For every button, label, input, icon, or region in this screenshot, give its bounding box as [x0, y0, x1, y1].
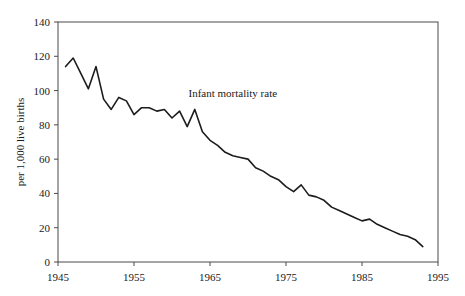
- y-tick-label-40: 40: [39, 187, 51, 199]
- y-axis-label: per 1,000 live births: [14, 98, 26, 187]
- y-tick-label-100: 100: [34, 85, 51, 97]
- chart-annotations: Infant mortality rate: [189, 87, 278, 99]
- chart-canvas: 194519551965197519851995 020406080100120…: [0, 0, 465, 296]
- y-axis-ticks: [54, 22, 58, 262]
- infant-mortality-chart: 194519551965197519851995 020406080100120…: [0, 0, 465, 296]
- y-tick-label-140: 140: [34, 16, 51, 28]
- y-tick-label-80: 80: [39, 119, 51, 131]
- y-tick-label-20: 20: [39, 222, 51, 234]
- y-axis-label-text: per 1,000 live births: [14, 98, 26, 187]
- y-tick-label-120: 120: [34, 50, 51, 62]
- x-tick-label-1985: 1985: [351, 271, 374, 283]
- x-tick-label-1965: 1965: [199, 271, 222, 283]
- series-line-infant-mortality-rate: [66, 58, 423, 247]
- x-axis-tick-labels: 194519551965197519851995: [47, 271, 450, 283]
- x-tick-label-1995: 1995: [427, 271, 450, 283]
- data-series-group: [66, 58, 423, 247]
- x-tick-label-1945: 1945: [47, 271, 70, 283]
- y-axis-tick-labels: 020406080100120140: [34, 16, 51, 268]
- y-tick-label-60: 60: [39, 153, 51, 165]
- y-tick-label-0: 0: [45, 256, 51, 268]
- x-tick-label-1975: 1975: [275, 271, 298, 283]
- x-tick-label-1955: 1955: [123, 271, 146, 283]
- x-axis-ticks: [58, 262, 438, 266]
- annotation-infant-mortality-rate: Infant mortality rate: [189, 87, 278, 99]
